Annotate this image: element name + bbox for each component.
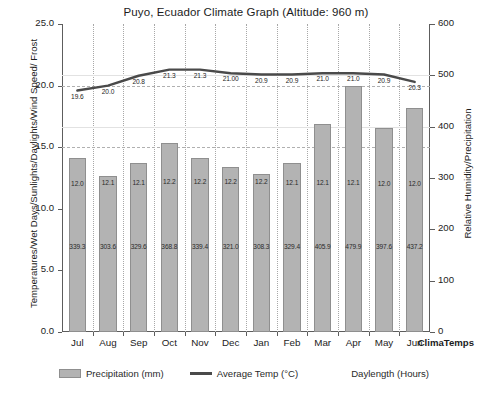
average-temp-value-label: 20.0 xyxy=(93,88,124,95)
y-tick-label-left: 5.0 xyxy=(12,263,54,274)
climate-chart: Puyo, Ecuador Climate Graph (Altitude: 9… xyxy=(0,0,488,408)
legend-label-daylength: Daylength (Hours) xyxy=(351,368,429,379)
y-tick-label-right: 0 xyxy=(438,325,478,336)
x-axis-month-label: Sep xyxy=(123,337,154,348)
y-tick-right xyxy=(430,24,435,25)
x-tick xyxy=(93,332,94,336)
legend-item-average-temp: Average Temp (°C) xyxy=(190,368,298,379)
legend-item-precipitation: Precipitation (mm) xyxy=(59,368,164,379)
x-tick xyxy=(215,332,216,336)
y-tick-right xyxy=(430,281,435,282)
x-axis-month-label: Oct xyxy=(154,337,185,348)
legend-item-daylength: Daylength (Hours) xyxy=(324,368,429,379)
y-tick-label-right: 600 xyxy=(438,17,478,28)
average-temp-value-label: 21.3 xyxy=(154,72,185,79)
y-tick-right xyxy=(430,127,435,128)
x-axis-month-label: Jan xyxy=(246,337,277,348)
average-temp-value-label: 21.3 xyxy=(185,72,216,79)
x-tick xyxy=(185,332,186,336)
y-tick-label-left: 10.0 xyxy=(12,202,54,213)
x-tick xyxy=(307,332,308,336)
x-axis-month-label: Aug xyxy=(93,337,124,348)
y-tick-label-left: 15.0 xyxy=(12,140,54,151)
y-tick-left xyxy=(58,332,62,333)
x-axis-month-label: Jul xyxy=(62,337,93,348)
y-tick-right xyxy=(430,332,435,333)
y-axis-left-title: Temperatures/Wet Days/Sunlights/Daylight… xyxy=(28,29,39,319)
y-tick-label-right: 500 xyxy=(438,68,478,79)
x-tick xyxy=(277,332,278,336)
y-tick-right xyxy=(430,75,435,76)
legend-label-precipitation: Precipitation (mm) xyxy=(86,368,164,379)
x-axis-month-label: Dec xyxy=(215,337,246,348)
x-tick xyxy=(369,332,370,336)
average-temp-line xyxy=(62,24,430,332)
average-temp-value-label: 20.3 xyxy=(399,84,430,91)
y-tick-label-right: 100 xyxy=(438,274,478,285)
x-axis-month-label: Apr xyxy=(338,337,369,348)
y-tick-label-left: 0.0 xyxy=(12,325,54,336)
chart-title: Puyo, Ecuador Climate Graph (Altitude: 9… xyxy=(62,6,430,18)
x-axis-month-label: Feb xyxy=(277,337,308,348)
x-tick xyxy=(399,332,400,336)
average-temp-value-label: 21.0 xyxy=(307,75,338,82)
average-temp-value-label: 21.0 xyxy=(338,75,369,82)
x-axis-month-label: Mar xyxy=(307,337,338,348)
x-axis-month-label: Nov xyxy=(185,337,216,348)
y-tick-label-left: 20.0 xyxy=(12,79,54,90)
y-tick-label-right: 400 xyxy=(438,120,478,131)
brand-label: ClimaTemps xyxy=(418,337,474,348)
legend-label-average-temp: Average Temp (°C) xyxy=(217,368,298,379)
plot-area: 0.05.010.015.020.025.0 01002003004005006… xyxy=(62,24,430,332)
x-axis-month-label: May xyxy=(369,337,400,348)
average-temp-value-label: 20.8 xyxy=(123,78,154,85)
average-temp-value-label: 20.9 xyxy=(246,77,277,84)
y-tick-label-left: 25.0 xyxy=(12,17,54,28)
legend-swatch-daylength xyxy=(324,369,346,378)
y-tick-label-right: 200 xyxy=(438,222,478,233)
average-temp-value-label: 20.9 xyxy=(277,77,308,84)
average-temp-value-label: 19.6 xyxy=(62,93,93,100)
legend-swatch-precipitation xyxy=(59,369,81,378)
x-tick xyxy=(246,332,247,336)
average-temp-value-label: 21.00 xyxy=(215,75,246,82)
y-tick-right xyxy=(430,178,435,179)
chart-legend: Precipitation (mm)Average Temp (°C)Dayle… xyxy=(0,362,488,384)
x-tick xyxy=(338,332,339,336)
y-tick-label-right: 300 xyxy=(438,171,478,182)
y-tick-right xyxy=(430,229,435,230)
average-temp-value-label: 20.9 xyxy=(369,77,400,84)
legend-swatch-average-temp xyxy=(190,372,212,375)
x-tick xyxy=(154,332,155,336)
x-tick xyxy=(123,332,124,336)
